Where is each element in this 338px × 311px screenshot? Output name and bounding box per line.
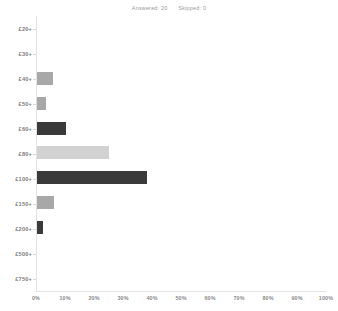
bar-row (37, 66, 326, 91)
survey-results-chart-page: Answered: 20 Skipped: 0 £20+£30+£40+£50+… (0, 0, 338, 311)
bar[interactable] (37, 97, 46, 110)
category-tick-mark (33, 104, 36, 105)
bar-row (37, 165, 326, 190)
category-label: £100+ (0, 166, 32, 191)
bar[interactable] (37, 221, 43, 234)
value-tick-label: 20% (88, 295, 99, 301)
skipped-count: Skipped: 0 (178, 5, 206, 11)
category-label: £750+ (0, 266, 32, 291)
bar[interactable] (37, 72, 53, 85)
value-tick-label: 40% (146, 295, 157, 301)
bar-row (37, 215, 326, 240)
bar-row (37, 91, 326, 116)
category-tick-mark (33, 179, 36, 180)
value-tick-label: 0% (32, 295, 40, 301)
category-tick-mark (33, 129, 36, 130)
value-tick-label: 10% (59, 295, 70, 301)
bar[interactable] (37, 196, 54, 209)
category-tick-mark (33, 154, 36, 155)
bar-row (37, 141, 326, 166)
value-tick-label: 60% (204, 295, 215, 301)
value-tick-label: 80% (262, 295, 273, 301)
bar-row (37, 265, 326, 290)
bar-row (37, 16, 326, 41)
value-axis-labels: 0%10%20%30%40%50%60%70%80%90%100% (36, 295, 326, 307)
bar-row (37, 240, 326, 265)
category-tick-mark (33, 54, 36, 55)
category-axis-labels: £20+£30+£40+£50+£60+£80+£100+£150+£200+£… (0, 16, 32, 291)
answered-count: Answered: 20 (132, 5, 168, 11)
bar-rows (37, 16, 326, 290)
value-tick-label: 30% (117, 295, 128, 301)
category-tick-mark (33, 229, 36, 230)
category-label: £60+ (0, 116, 32, 141)
bar-row (37, 190, 326, 215)
category-tick-mark (33, 79, 36, 80)
value-tick-label: 100% (319, 295, 333, 301)
horizontal-bar-chart: £20+£30+£40+£50+£60+£80+£100+£150+£200+£… (0, 14, 338, 311)
value-tick-label: 50% (175, 295, 186, 301)
category-label: £20+ (0, 16, 32, 41)
value-tick-label: 90% (291, 295, 302, 301)
bar[interactable] (37, 122, 66, 135)
category-label: £30+ (0, 41, 32, 66)
bar[interactable] (37, 146, 109, 159)
bar-row (37, 41, 326, 66)
value-tick-label: 70% (233, 295, 244, 301)
category-label: £40+ (0, 66, 32, 91)
plot-area (36, 16, 326, 292)
response-stats-bar: Answered: 20 Skipped: 0 (0, 2, 338, 14)
category-label: £200+ (0, 216, 32, 241)
category-tick-mark (33, 29, 36, 30)
category-tick-mark (33, 204, 36, 205)
category-label: £150+ (0, 191, 32, 216)
category-label: £50+ (0, 91, 32, 116)
category-tick-mark (33, 279, 36, 280)
category-label: £500+ (0, 241, 32, 266)
bar-row (37, 116, 326, 141)
bar[interactable] (37, 171, 147, 184)
category-tick-mark (33, 254, 36, 255)
category-label: £80+ (0, 141, 32, 166)
